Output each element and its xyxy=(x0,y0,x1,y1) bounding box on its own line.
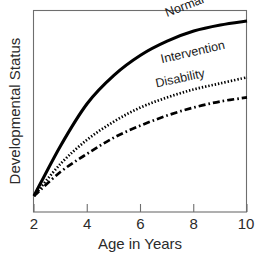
developmental-status-line-chart: 246810 NormalInterventionDisability Age … xyxy=(0,0,263,258)
x-tick-label: 6 xyxy=(136,215,144,232)
x-tick-label: 4 xyxy=(83,215,91,232)
chart-figure: 246810 NormalInterventionDisability Age … xyxy=(0,0,263,258)
y-axis-title: Developmental Status xyxy=(6,38,23,185)
x-tick-label: 8 xyxy=(190,215,198,232)
x-tick-label: 2 xyxy=(30,215,38,232)
x-tick-label: 10 xyxy=(238,215,255,232)
x-axis-title: Age in Years xyxy=(98,235,182,252)
